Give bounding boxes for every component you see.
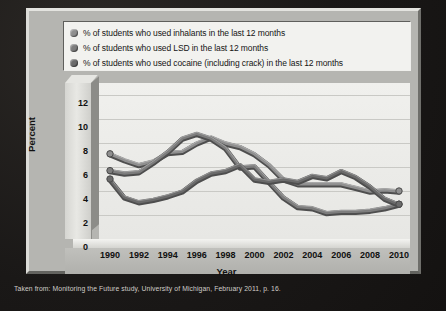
legend-marker-cocaine: [70, 59, 78, 67]
x-axis-tick-label: 2000: [244, 250, 264, 260]
x-axis-tick-label: 1996: [187, 250, 207, 260]
legend-label-inhalants: % of students who used inhalants in the …: [83, 28, 285, 38]
series-endpoint-marker: [396, 188, 402, 194]
chart-panel: % of students who used inhalants in the …: [26, 8, 421, 274]
chart-legend: % of students who used inhalants in the …: [63, 21, 411, 71]
legend-label-cocaine: % of students who used cocaine (includin…: [83, 58, 343, 68]
y-axis-tick-label: 8: [83, 146, 88, 156]
x-axis-tick-label: 2004: [302, 250, 322, 260]
y-axis-block: 024681012: [65, 75, 99, 239]
source-citation: Taken from: Monitoring the Future study,…: [14, 285, 281, 292]
y-axis-tick-label: 12: [78, 98, 88, 108]
y-axis-side-face: [91, 76, 99, 231]
y-axis-tick-label: 0: [83, 242, 88, 252]
y-axis-front-face: 024681012: [65, 83, 92, 239]
legend-marker-lsd: [70, 44, 78, 52]
x-axis-tick-label: 1992: [129, 250, 149, 260]
y-axis-tick-label: 4: [83, 194, 88, 204]
legend-item-cocaine: % of students who used cocaine (includin…: [70, 56, 405, 70]
legend-marker-inhalants: [70, 29, 78, 37]
legend-label-lsd: % of students who used LSD in the last 1…: [83, 43, 268, 53]
x-axis-tick-label: 1998: [216, 250, 236, 260]
chart-series-layer: [99, 83, 410, 239]
y-axis-tick-label: 10: [78, 122, 88, 132]
x-axis-tick-label: 2006: [331, 250, 351, 260]
series-endpoint-marker: [396, 201, 402, 207]
x-axis-tick-label: 2010: [389, 250, 409, 260]
series-endpoint-marker: [107, 151, 113, 157]
x-axis-tick-label: 1990: [100, 250, 120, 260]
chart-panel-inner: % of students who used inhalants in the …: [29, 11, 418, 271]
y-axis-tick-label: 2: [83, 218, 88, 228]
plot-floor: [73, 239, 410, 248]
legend-item-lsd: % of students who used LSD in the last 1…: [70, 41, 405, 55]
x-axis-tick-label: 1994: [158, 250, 178, 260]
series-endpoint-marker: [107, 176, 113, 182]
x-axis-tick-label: 2002: [273, 250, 293, 260]
series-endpoint-marker: [107, 167, 113, 173]
y-axis-title: Percent: [26, 117, 37, 152]
x-axis-title: Year: [29, 266, 424, 277]
x-axis-tick-label: 2008: [360, 250, 380, 260]
legend-item-inhalants: % of students who used inhalants in the …: [70, 26, 405, 40]
y-axis-tick-label: 6: [83, 170, 88, 180]
